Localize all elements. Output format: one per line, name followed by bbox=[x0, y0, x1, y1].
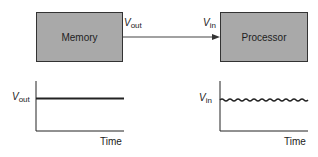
vin-signal-label: Vin bbox=[203, 17, 216, 30]
diagram-lines bbox=[0, 0, 318, 157]
right-graph-y-label: Vin bbox=[199, 92, 212, 105]
arrowhead-icon bbox=[212, 34, 220, 40]
right-graph-x-label: Time bbox=[284, 136, 306, 147]
right-waveform-ripple bbox=[220, 99, 308, 101]
vout-signal-label: Vout bbox=[124, 17, 142, 30]
left-graph-y-label: Vout bbox=[12, 91, 30, 104]
left-graph-x-label: Time bbox=[100, 136, 122, 147]
